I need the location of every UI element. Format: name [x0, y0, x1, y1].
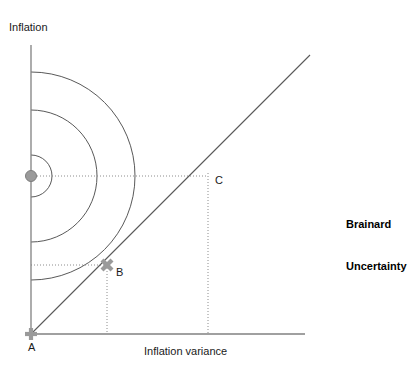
point-b-label: B: [116, 266, 123, 279]
point-a-label: A: [28, 341, 35, 354]
brainard-uncertainty-annotation: Brainard Uncertainty: [346, 189, 407, 301]
annotation-line-2: Uncertainty: [346, 259, 407, 273]
point-c-label: C: [215, 174, 223, 187]
axes: [31, 45, 305, 334]
brainard-uncertainty-figure: Inflation Inflation variance A B C Brain…: [0, 0, 417, 379]
bliss-point-marker: [26, 171, 37, 182]
policy-line: [31, 55, 310, 334]
x-axis-label: Inflation variance: [144, 345, 227, 358]
annotation-line-1: Brainard: [346, 217, 407, 231]
y-axis-label: Inflation: [9, 21, 48, 34]
guide-lines: [31, 173, 208, 334]
